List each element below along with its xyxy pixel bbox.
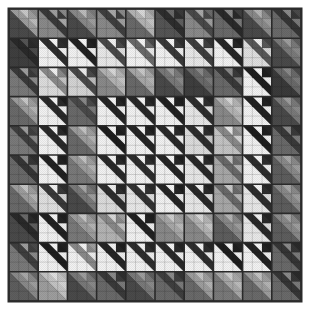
quilt-artwork	[0, 0, 309, 322]
